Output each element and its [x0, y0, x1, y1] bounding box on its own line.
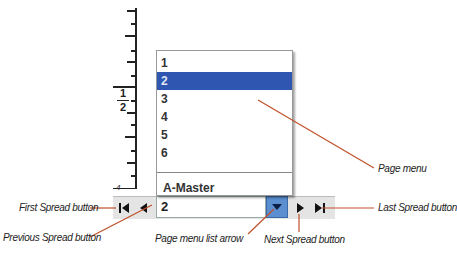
callout-page-menu: Page menu: [378, 163, 426, 174]
callout-next-spread: Next Spread button: [264, 234, 345, 245]
callout-last-spread: Last Spread button: [378, 202, 457, 213]
callout-previous-spread: Previous Spread button: [3, 232, 101, 243]
callout-first-spread: First Spread button: [19, 202, 98, 213]
callout-page-menu-arrow: Page menu list arrow: [155, 233, 243, 244]
